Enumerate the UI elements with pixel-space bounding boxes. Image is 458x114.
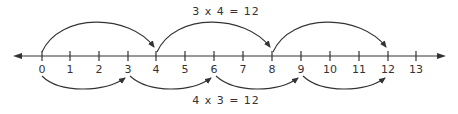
jump-arc-6-9 [216,76,298,89]
tick-label: 12 [381,63,395,76]
tick-label: 11 [352,63,366,76]
tick-label: 5 [182,63,189,76]
bottom-jump-arcs [42,76,385,89]
jump-arc-4-8 [157,22,270,52]
number-line-diagram: 0 1 2 3 4 5 6 7 8 9 10 11 12 13 3 x 4 = … [0,0,458,114]
tick-label: 8 [269,63,276,76]
tick-label: 9 [298,63,305,76]
number-line-axis [13,53,446,59]
tick-label: 1 [67,63,74,76]
tick-labels: 0 1 2 3 4 5 6 7 8 9 10 11 12 13 [39,63,424,76]
top-equation: 3 x 4 = 12 [192,5,260,18]
tick-label: 7 [240,63,247,76]
tick-label: 3 [125,63,132,76]
left-arrow-icon [13,53,22,59]
jump-arc-0-3 [42,76,125,89]
jump-arc-8-12 [273,22,386,52]
jump-arc-0-4 [42,22,154,52]
bottom-equation: 4 x 3 = 12 [192,94,260,107]
tick-label: 13 [409,63,423,76]
tick-label: 10 [323,63,337,76]
right-arrow-icon [437,53,446,59]
tick-label: 2 [96,63,103,76]
tick-label: 4 [153,63,160,76]
jump-arc-9-12 [303,76,385,89]
top-jump-arcs [42,22,386,52]
tick-label: 6 [211,63,218,76]
tick-label: 0 [39,63,46,76]
jump-arc-3-6 [130,76,211,89]
